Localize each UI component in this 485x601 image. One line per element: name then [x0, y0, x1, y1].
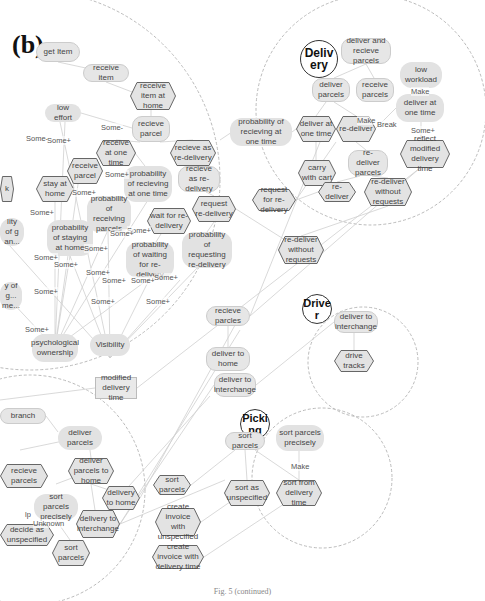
node-label: deliver parcels: [316, 80, 346, 100]
node-label: create invoice with delivery time: [155, 542, 201, 572]
node-deliver-parcels-top: deliver parcels: [312, 78, 350, 102]
node-redeliver-without-outer: re-deliver without requests: [278, 236, 324, 264]
node-label: deliver at one time: [399, 98, 441, 118]
node-deliver-one-time-hex: deliver at one time: [296, 116, 336, 142]
edge-label: Some+: [146, 297, 170, 306]
node-label: recieve as re-delivery: [173, 143, 213, 163]
node-sort-parcels-precisely-low: sort parcels precisely: [34, 494, 78, 520]
node-left-cut-2: y of g... me...: [0, 282, 22, 310]
node-sort-parcels-pick: sort parcels: [225, 432, 265, 450]
edge-label: Some+: [47, 136, 71, 145]
node-left-cut-k: k: [0, 176, 14, 202]
node-create-invoice-delivery-time: create invoice with delivery time: [152, 545, 204, 569]
node-deliver-to-home: deliver to home: [206, 347, 250, 371]
actor-delivery: Deliv ery: [300, 40, 338, 78]
node-label: probability of recieving at one time: [233, 117, 289, 147]
node-deliver-parcels-low: deliver parcels: [58, 426, 102, 450]
node-label: sort parcels: [156, 475, 188, 495]
edge-label: Some+: [105, 170, 129, 179]
node-create-invoice-unspecified: create invoice with unspecified: [155, 508, 201, 536]
edge-label: Some+: [102, 276, 126, 285]
node-label: recieve parcels: [3, 466, 45, 486]
node-deliver-to-interchange-mid: deliver to interchange: [214, 373, 256, 397]
node-label: sort from delivery time: [279, 478, 319, 508]
node-label: decide as unspecified: [3, 525, 51, 545]
node-label: deliver to interchange: [214, 375, 256, 395]
node-modified-delivery-time: modified delivery time: [95, 377, 137, 399]
node-receive-parcel-1: recieve parcel: [132, 116, 170, 142]
edge-label: Make: [291, 462, 309, 471]
edge-label: Some+: [54, 260, 78, 269]
node-label: request re-delivery: [195, 199, 233, 219]
node-label: re-deliver without requests: [367, 177, 409, 207]
node-receive-item-home: receive item at home: [130, 82, 176, 110]
node-receive-parcels-top: receive parcels: [356, 78, 394, 102]
edge-label: Some+: [131, 276, 155, 285]
edge-label: Some-: [26, 134, 48, 143]
node-deliver-parcels-home: deliver parcels to home: [68, 458, 114, 484]
node-deliver-to-interchange-driver: deliver to interchange: [334, 311, 378, 333]
node-receive-one-time: receive at one time: [96, 140, 136, 166]
node-label: deliver parcels to home: [71, 456, 111, 486]
node-label: branch: [11, 411, 35, 421]
node-drive-tracks: drive tracks: [334, 350, 374, 372]
node-label: deliver to home: [210, 349, 246, 369]
edge-label: Some+: [91, 297, 115, 306]
edge-label: Some+: [72, 188, 96, 197]
node-label: re-deliver parcels: [352, 148, 384, 178]
node-low-workload: low workload: [400, 62, 442, 88]
edge-label: Some+: [30, 208, 54, 217]
node-prob-recieving-one-time-mid: probability of recieving at one time: [230, 118, 292, 146]
node-label: k: [5, 184, 9, 194]
node-deliver-one-time-cloud: deliver at one time: [396, 94, 444, 122]
node-label: probability of receiving parcels: [90, 194, 128, 234]
node-sort-parcels-low: sort parcels: [52, 540, 90, 566]
node-label: modified delivery time: [99, 373, 133, 403]
node-recieve-parcels-cut: recieve parcels: [0, 464, 48, 488]
node-redeliver-hex2: re-deliver: [318, 182, 356, 202]
node-label: carry with cart: [301, 163, 333, 183]
node-branch: branch: [0, 408, 46, 424]
node-psych-ownership: psychological ownership: [32, 334, 78, 362]
node-label: get Item: [44, 47, 73, 57]
node-label: sort as unspecified: [227, 483, 267, 503]
node-visibility: Visibility: [90, 334, 130, 356]
node-receive-parcel-2: receive parcel: [67, 158, 103, 184]
node-label: sort parcels: [229, 431, 261, 451]
node-label: receive parcel: [70, 161, 100, 181]
edge-label: Break: [377, 120, 397, 129]
node-label: low effort: [48, 103, 78, 123]
node-label: recieve parcles: [210, 306, 246, 326]
node-label: create invoice with unspecified: [158, 502, 198, 542]
edge-label: Some+: [84, 244, 108, 253]
node-get-item: get Item: [36, 42, 80, 62]
figure-caption: Fig. 5 (continued): [0, 587, 485, 596]
node-label: deliver parcels: [61, 428, 99, 448]
node-label: re-deliver: [321, 182, 353, 202]
node-label: deliver at one time: [299, 119, 333, 139]
node-label: psychological ownership: [31, 338, 79, 358]
node-decide-unspecified: decide as unspecified: [0, 524, 54, 546]
node-request-redelivery: request re-delivery: [192, 196, 236, 222]
node-label: receive item at home: [133, 81, 173, 111]
node-sort-parcels-mid: sort parcels: [153, 475, 191, 495]
edge-label: Some-: [101, 123, 123, 132]
node-sort-parcels-precisely-pick: sort parcels precisely: [276, 425, 324, 451]
node-label: stay at home: [39, 179, 71, 199]
node-label: lity of g an...: [3, 217, 21, 247]
node-delivery-to-home: delivery to home: [102, 486, 140, 510]
node-label: sort parcels: [55, 543, 87, 563]
node-label: receive at one time: [99, 138, 133, 168]
node-prob-receiving-parcels: probability of receiving parcels: [87, 196, 131, 232]
node-label: low workload: [403, 65, 439, 85]
edge-label: lp: [25, 510, 31, 519]
node-label: probability of recieving at one time: [127, 169, 169, 199]
node-deliver-and-recieve: deliver and recieve parcels: [341, 38, 391, 64]
node-stay-home: stay at home: [36, 176, 74, 202]
node-request-for-redelivery: request for re-delivery: [252, 189, 296, 211]
node-label: delivery to interchange: [77, 514, 119, 534]
node-redeliver-without-inner: re-deliver without requests: [364, 178, 412, 206]
node-receive-item: receive item: [83, 64, 129, 82]
diagram-canvas: (b) Deliv ery Drive r Picki ng get Itemr…: [0, 0, 485, 601]
node-label: wait for re-delivery: [150, 211, 188, 231]
